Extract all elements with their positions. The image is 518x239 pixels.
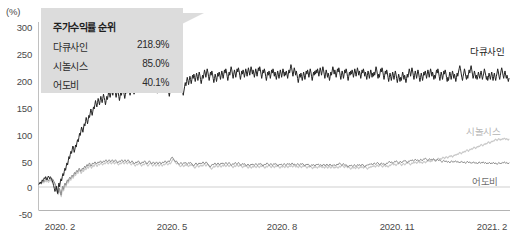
callout-row-value-2: 40.1%	[142, 77, 169, 88]
x-tick-2021-02: 2021. 2	[477, 221, 507, 232]
callout-row-name-0: 다큐사인	[53, 39, 87, 54]
series-label-docusign: 다큐사인	[470, 44, 505, 58]
callout-row-value-1: 85.0%	[142, 58, 169, 69]
y-tick-0: 0	[2, 182, 32, 193]
x-tick-2020-02: 2020. 2	[45, 221, 75, 232]
y-axis-unit-label: (%)	[6, 6, 20, 17]
callout-title: 주가수익률 순위	[53, 19, 116, 34]
callout-row-name-1: 시놀시스	[53, 58, 87, 73]
y-tick-50: 50	[2, 157, 32, 168]
series-line-synopsys	[39, 138, 509, 197]
x-tick-2020-08: 2020. 8	[267, 221, 297, 232]
callout-row-value-0: 218.9%	[137, 39, 169, 50]
series-label-adobe: 어도비	[472, 174, 498, 188]
y-tick-300: 300	[2, 22, 32, 33]
callout-tail	[182, 13, 204, 35]
series-label-synopsys: 시놀시스	[466, 124, 501, 138]
y-tick-250: 250	[2, 49, 32, 60]
stock-return-line-chart: (%) 300 250 200 150 100 50 0 -50 2020. 2…	[0, 0, 518, 239]
x-tick-2020-05: 2020. 5	[157, 221, 187, 232]
y-tick-200: 200	[2, 76, 32, 87]
y-tick-100: 100	[2, 130, 32, 141]
x-tick-2020-11: 2020. 11	[380, 221, 415, 232]
callout-row-name-2: 어도비	[53, 77, 79, 92]
ranking-callout: 주가수익률 순위 다큐사인 218.9% 시놀시스 85.0% 어도비 40.1…	[41, 8, 183, 93]
y-tick-150: 150	[2, 103, 32, 114]
y-tick-neg50: -50	[2, 209, 32, 220]
